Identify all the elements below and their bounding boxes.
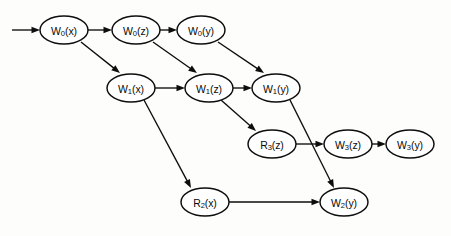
edge-w0z-w0y	[160, 27, 177, 34]
edge-shaft	[218, 42, 258, 69]
edge-r2x-w2y	[229, 199, 320, 206]
arrowhead-icon	[312, 199, 321, 206]
edge-w0x-w1x	[81, 42, 120, 73]
arrowhead-icon	[177, 85, 186, 92]
node-label: W0(y)	[188, 25, 214, 38]
edge-r3z-w3z	[296, 141, 324, 148]
edge-w1z-w1y	[233, 85, 252, 92]
arrowhead-icon	[188, 65, 197, 73]
node-label: W2(y)	[331, 197, 357, 210]
node-label: W1(z)	[196, 83, 222, 96]
node-label: R3(z)	[260, 139, 284, 152]
edge-w0y-w1y	[218, 42, 264, 73]
edge-shaft	[153, 42, 191, 69]
edge-entry-w0x	[12, 27, 40, 34]
arrowhead-icon	[32, 27, 41, 34]
arrowhead-icon	[255, 66, 264, 73]
arrowhead-icon	[327, 179, 334, 188]
node-label: W3(y)	[397, 139, 423, 152]
node-label: W1(y)	[263, 83, 289, 96]
edge-w1z-r3z	[221, 100, 256, 131]
diagram-canvas: W0(x)W0(z)W0(y)W1(x)W1(z)W1(y)R3(z)W3(z)…	[0, 0, 451, 236]
node-label: W0(z)	[123, 25, 149, 38]
node-w2y[interactable]: W2(y)	[320, 188, 368, 216]
arrowhead-icon	[316, 141, 325, 148]
edge-w3z-w3y	[372, 141, 386, 148]
node-w1y[interactable]: W1(y)	[252, 74, 300, 102]
node-w0x[interactable]: W0(x)	[40, 16, 88, 44]
node-label: R2(x)	[193, 197, 217, 210]
node-layer: W0(x)W0(z)W0(y)W1(x)W1(z)W1(y)R3(z)W3(z)…	[40, 16, 434, 216]
arrowhead-icon	[169, 27, 178, 34]
edge-shaft	[221, 100, 251, 126]
node-w3z[interactable]: W3(z)	[324, 130, 372, 158]
edge-w0z-w1z	[153, 42, 197, 73]
arrowhead-icon	[184, 179, 191, 188]
node-label: W1(x)	[118, 83, 144, 96]
edge-w1x-w1z	[155, 85, 185, 92]
edge-shaft	[81, 42, 115, 69]
node-w0y[interactable]: W0(y)	[177, 16, 225, 44]
node-r3z[interactable]: R3(z)	[248, 130, 296, 158]
node-r2x[interactable]: R2(x)	[181, 188, 229, 216]
node-w0z[interactable]: W0(z)	[112, 16, 160, 44]
node-w1x[interactable]: W1(x)	[107, 74, 155, 102]
node-label: W3(z)	[335, 139, 361, 152]
node-w1z[interactable]: W1(z)	[185, 74, 233, 102]
node-label: W0(x)	[51, 25, 77, 38]
edge-shaft	[144, 100, 188, 182]
graph-svg: W0(x)W0(z)W0(y)W1(x)W1(z)W1(y)R3(z)W3(z)…	[0, 0, 451, 236]
arrowhead-icon	[104, 27, 113, 34]
edge-w0x-w0z	[88, 27, 112, 34]
edge-w1x-r2x	[144, 100, 191, 188]
edge-layer	[12, 27, 386, 206]
arrowhead-icon	[378, 141, 387, 148]
node-w3y[interactable]: W3(y)	[386, 130, 434, 158]
arrowhead-icon	[244, 85, 253, 92]
